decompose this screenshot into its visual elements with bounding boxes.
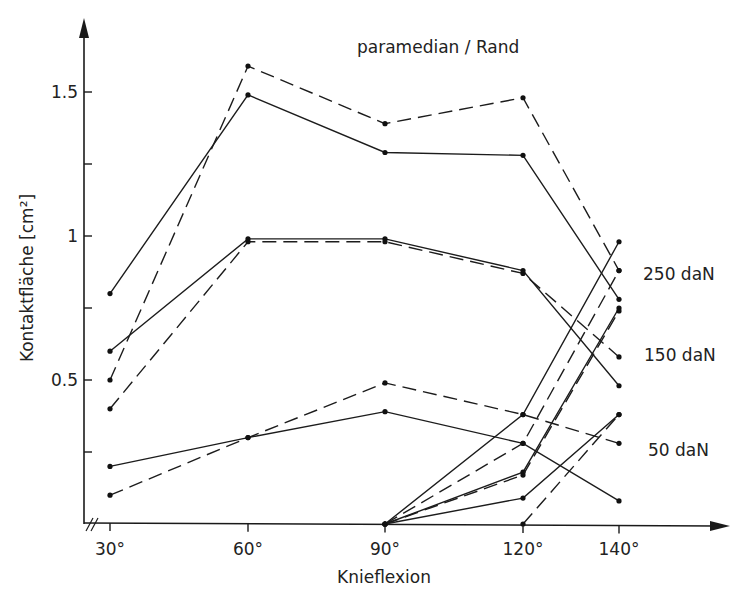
data-point xyxy=(520,472,525,477)
y-ticks: 0.511.5 xyxy=(51,82,92,452)
x-ticks: 30°60°90°120°140° xyxy=(95,523,640,559)
data-point xyxy=(382,150,387,155)
data-point xyxy=(616,297,621,302)
data-point xyxy=(520,521,525,526)
series-line xyxy=(523,415,619,524)
data-point xyxy=(245,63,250,68)
data-point xyxy=(616,354,621,359)
data-point xyxy=(616,268,621,273)
data-point xyxy=(107,493,112,498)
series-line xyxy=(110,66,619,380)
series-line xyxy=(110,412,619,501)
series-lines xyxy=(107,63,621,526)
x-axis xyxy=(84,523,716,526)
data-point xyxy=(382,239,387,244)
data-point xyxy=(616,239,621,244)
data-point xyxy=(520,495,525,500)
data-point xyxy=(245,435,250,440)
data-point xyxy=(616,441,621,446)
data-point xyxy=(107,349,112,354)
series-line xyxy=(110,95,619,299)
data-point xyxy=(520,95,525,100)
data-point xyxy=(520,271,525,276)
data-point xyxy=(382,521,387,526)
series-line xyxy=(385,271,619,524)
data-point xyxy=(382,409,387,414)
x-axis-label: Knieflexion xyxy=(337,567,431,587)
x-tick-label: 30° xyxy=(95,539,125,559)
axes xyxy=(79,18,730,531)
x-tick-label: 120° xyxy=(503,539,544,559)
data-point xyxy=(616,383,621,388)
data-point xyxy=(107,464,112,469)
y-tick-label: 1 xyxy=(67,226,78,246)
y-tick-label: 1.5 xyxy=(51,82,78,102)
data-point xyxy=(520,412,525,417)
data-point xyxy=(382,121,387,126)
annotation-150-dan: 150 daN xyxy=(644,345,716,365)
line-chart: 0.511.5 30°60°90°120°140° paramedian / R… xyxy=(0,0,741,595)
data-point xyxy=(616,412,621,417)
x-tick-label: 140° xyxy=(599,539,640,559)
data-point xyxy=(616,498,621,503)
x-axis-arrow-icon xyxy=(710,521,730,531)
data-point xyxy=(616,308,621,313)
series-line xyxy=(385,308,619,524)
x-tick-label: 60° xyxy=(233,539,263,559)
data-point xyxy=(107,377,112,382)
x-tick-label: 90° xyxy=(370,539,400,559)
series-line xyxy=(385,242,619,524)
annotation-50-dan: 50 daN xyxy=(648,440,709,460)
data-point xyxy=(245,92,250,97)
y-axis-label: Kontaktfläche [cm²] xyxy=(17,194,37,362)
data-point xyxy=(382,380,387,385)
data-point xyxy=(107,291,112,296)
chart-title: paramedian / Rand xyxy=(357,37,519,57)
data-point xyxy=(520,441,525,446)
annotation-250-dan: 250 daN xyxy=(643,264,715,284)
y-axis-arrow-icon xyxy=(79,18,89,38)
data-point xyxy=(107,406,112,411)
data-point xyxy=(520,153,525,158)
series-line xyxy=(110,242,619,409)
series-line xyxy=(110,239,619,386)
y-tick-label: 0.5 xyxy=(51,370,78,390)
data-point xyxy=(245,239,250,244)
